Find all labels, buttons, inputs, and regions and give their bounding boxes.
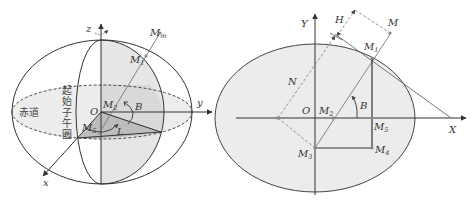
- height-label: H: [334, 14, 344, 25]
- z-axis-label: z: [85, 23, 92, 34]
- mm-label: Mm: [149, 27, 166, 40]
- svg-text:子: 子: [62, 107, 72, 118]
- latitude-label: B: [134, 101, 142, 112]
- point-n-foot: [276, 116, 280, 120]
- point-m5: [370, 116, 373, 119]
- left-ellipsoid-diagram: z y x O Mm M1 M2 M5 B L 赤道 起 始 子 午 圈: [12, 23, 212, 188]
- x-axis-label: X: [448, 124, 457, 135]
- origin-label: O: [302, 105, 310, 116]
- tangent-tick: [330, 33, 342, 40]
- prime-meridian-label: 起 始 子 午 圈: [62, 85, 72, 140]
- y-axis-label: y: [196, 97, 203, 108]
- geodetic-coordinates-figure: z y x O Mm M1 M2 M5 B L 赤道 起 始 子 午 圈: [0, 0, 472, 202]
- m-label: M: [387, 17, 399, 28]
- y-axis-label: Y: [301, 18, 309, 29]
- origin-label: O: [90, 106, 98, 117]
- h-offset-line: [355, 10, 390, 33]
- svg-text:午: 午: [62, 117, 72, 129]
- point-m3: [313, 146, 316, 149]
- longitude-label: L: [116, 126, 124, 137]
- point-m1: [144, 54, 147, 57]
- right-meridian-ellipse-diagram: Y X O H N B M M1 M2 M3 M4 M5: [215, 10, 466, 195]
- equator-label: 赤道: [19, 106, 39, 118]
- point-m: [388, 31, 391, 34]
- svg-text:始: 始: [62, 95, 72, 107]
- point-m1: [370, 56, 373, 59]
- m1-label: M1: [363, 41, 378, 54]
- x-axis-label: x: [43, 177, 49, 188]
- point-m4: [370, 146, 373, 149]
- svg-text:圈: 圈: [62, 129, 72, 140]
- svg-text:起: 起: [62, 85, 72, 96]
- normal-label: N: [287, 76, 298, 87]
- latitude-label: B: [359, 100, 367, 111]
